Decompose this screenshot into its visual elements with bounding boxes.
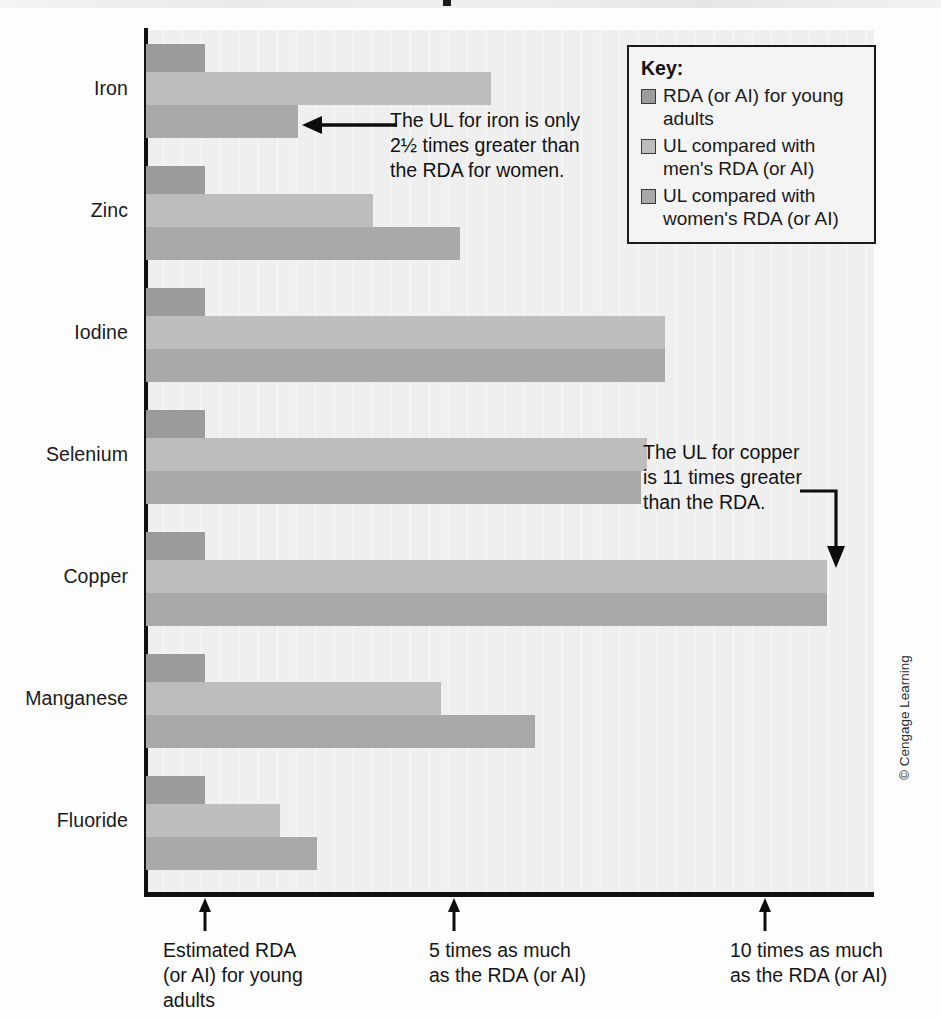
legend-title: Key:: [641, 57, 862, 80]
bar-zinc-ul-women: [146, 227, 460, 260]
bar-fluoride-ul-women: [146, 837, 317, 870]
bar-iodine-ul-men: [146, 316, 665, 349]
x-axis-tick-arrow-icon-10: [758, 898, 772, 932]
bar-copper-ul-men: [146, 560, 827, 593]
bar-iodine-rda: [146, 288, 205, 316]
legend-item-rda: RDA (or AI) for young adults: [641, 85, 862, 130]
bar-iodine-ul-women: [146, 349, 665, 382]
bar-fluoride-rda: [146, 776, 205, 804]
x-axis-tick-arrow-icon-5: [447, 898, 461, 932]
x-axis-tick-label-10: 10 times as much as the RDA (or AI): [730, 938, 887, 988]
scan-artifact-strip: [0, 0, 941, 8]
bar-copper-rda: [146, 532, 205, 560]
category-label-zinc: Zinc: [0, 199, 128, 222]
annotation-iron-arrow-icon: [300, 113, 398, 137]
legend-item-ul-men: UL compared with men's RDA (or AI): [641, 135, 862, 180]
bar-copper-ul-women: [146, 593, 827, 626]
bar-iron-ul-women: [146, 105, 298, 138]
bar-manganese-ul-men: [146, 682, 441, 715]
legend-key-box: Key: RDA (or AI) for young adults UL com…: [627, 45, 876, 244]
category-label-iodine: Iodine: [0, 321, 128, 344]
x-axis-tick-label-5: 5 times as much as the RDA (or AI): [429, 938, 586, 988]
category-label-manganese: Manganese: [0, 687, 128, 710]
figure-root: IronZincIodineSeleniumCopperManganeseFlu…: [0, 0, 941, 1019]
bar-zinc-ul-men: [146, 194, 373, 227]
x-axis-tick-label-1: Estimated RDA (or AI) for young adults: [163, 938, 303, 1013]
legend-swatch-ul-women-icon: [641, 189, 656, 204]
legend-label-rda: RDA (or AI) for young adults: [663, 85, 862, 130]
legend-item-ul-women: UL compared with women's RDA (or AI): [641, 185, 862, 230]
category-label-copper: Copper: [0, 565, 128, 588]
category-label-iron: Iron: [0, 77, 128, 100]
scan-artifact-dot: [443, 0, 451, 6]
legend-swatch-rda-icon: [641, 89, 656, 104]
annotation-iron-text: The UL for iron is only 2½ times greater…: [390, 108, 580, 183]
copyright-credit: © Cengage Learning: [897, 655, 912, 780]
bar-manganese-ul-women: [146, 715, 535, 748]
category-label-fluoride: Fluoride: [0, 809, 128, 832]
bar-selenium-ul-men: [146, 438, 647, 471]
annotation-copper-text: The UL for copper is 11 times greater th…: [643, 440, 802, 515]
x-axis-tick-arrow-icon-1: [198, 898, 212, 932]
bar-zinc-rda: [146, 166, 205, 194]
category-label-selenium: Selenium: [0, 443, 128, 466]
bar-manganese-rda: [146, 654, 205, 682]
bar-iron-ul-men: [146, 72, 491, 105]
bar-selenium-ul-women: [146, 471, 641, 504]
legend-label-ul-men: UL compared with men's RDA (or AI): [663, 135, 862, 180]
legend-swatch-ul-men-icon: [641, 139, 656, 154]
bar-fluoride-ul-men: [146, 804, 280, 837]
legend-label-ul-women: UL compared with women's RDA (or AI): [663, 185, 862, 230]
bar-selenium-rda: [146, 410, 205, 438]
x-axis-line: [144, 892, 874, 897]
annotation-copper-arrow-icon: [798, 488, 858, 572]
bar-iron-rda: [146, 44, 205, 72]
